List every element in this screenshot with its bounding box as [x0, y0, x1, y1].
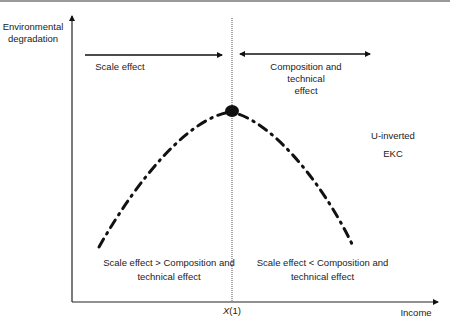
- bottom-right-region-label: Scale effect < Composition and technical…: [240, 256, 405, 284]
- ekc-curve: [99, 112, 352, 247]
- bottom-right-line1: Scale effect < Composition and: [240, 256, 405, 270]
- composition-label-line3: effect: [256, 85, 356, 97]
- bottom-left-line1: Scale effect > Composition and: [84, 256, 254, 270]
- turning-point-marker: [225, 105, 239, 117]
- composition-effect-label: Composition and technical effect: [256, 61, 356, 97]
- y-axis-label: Environmental degradation: [0, 21, 66, 45]
- bottom-left-region-label: Scale effect > Composition and technical…: [84, 256, 254, 284]
- bottom-right-line2: technical effect: [240, 270, 405, 284]
- turning-point-tick-label: X(1): [216, 305, 248, 317]
- curve-label: U-inverted EKC: [358, 127, 428, 163]
- composition-label-line2: technical: [256, 73, 356, 85]
- curve-label-line1: U-inverted: [358, 127, 428, 145]
- curve-label-line2: EKC: [358, 145, 428, 163]
- y-axis-label-line2: degradation: [0, 33, 66, 45]
- scale-effect-label: Scale effect: [80, 61, 160, 73]
- x-axis-label: Income: [394, 307, 438, 319]
- composition-label-line1: Composition and: [256, 61, 356, 73]
- turning-point-suffix: (1): [229, 305, 241, 316]
- bottom-left-line2: technical effect: [84, 270, 254, 284]
- y-axis-label-line1: Environmental: [0, 21, 66, 33]
